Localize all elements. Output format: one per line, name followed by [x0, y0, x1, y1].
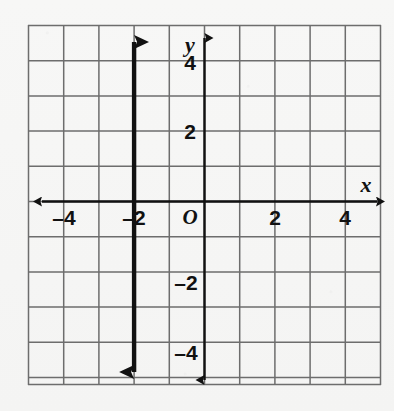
coordinate-graph-figure: –4 –2 2 4 4 2 –2 –4 O x y: [0, 0, 394, 411]
y-tick-label-neg2: –2: [174, 271, 197, 294]
graph-svg: –4 –2 2 4 4 2 –2 –4 O x y: [0, 0, 394, 411]
x-tick-label-2: 2: [269, 206, 281, 229]
y-tick-label-2: 2: [184, 120, 196, 143]
x-axis-label: x: [360, 172, 372, 197]
x-tick-label-neg4: –4: [52, 206, 76, 229]
y-tick-label-neg4: –4: [174, 341, 198, 364]
x-tick-label-4: 4: [339, 206, 351, 229]
origin-label: O: [182, 205, 197, 229]
x-tick-label-neg2: –2: [122, 206, 145, 229]
